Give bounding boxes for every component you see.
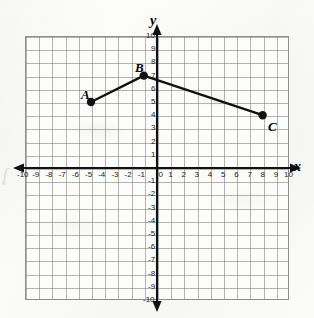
y-tick--10: -10 <box>143 296 155 304</box>
y-tick-8: 8 <box>151 58 155 66</box>
y-tick-9: 9 <box>151 45 155 53</box>
x-tick--10: -10 <box>17 171 29 179</box>
x-tick--3: -3 <box>111 171 118 179</box>
x-tick--4: -4 <box>98 171 105 179</box>
graph-vector-layer <box>7 18 307 318</box>
x-tick-2: 2 <box>181 171 185 179</box>
x-tick-8: 8 <box>261 171 265 179</box>
point-label-c: C <box>268 120 277 133</box>
x-tick-4: 4 <box>208 171 212 179</box>
x-tick-1: 1 <box>168 171 172 179</box>
coordinate-plane: A B C <box>25 36 289 300</box>
point-c-marker <box>258 111 266 119</box>
y-tick--5: -5 <box>148 230 155 238</box>
y-tick-3: 3 <box>151 124 155 132</box>
worksheet-page: ʆ A B <box>0 0 314 318</box>
y-tick-2: 2 <box>151 138 155 146</box>
origin-tick: 0 <box>159 171 163 179</box>
y-tick-6: 6 <box>151 85 155 93</box>
y-tick--9: -9 <box>148 283 155 291</box>
y-tick-10: 10 <box>146 32 155 40</box>
x-axis-label: x <box>294 160 301 174</box>
x-tick-3: 3 <box>195 171 199 179</box>
point-label-b: B <box>135 61 144 74</box>
point-label-a: A <box>81 88 90 101</box>
segment-abc <box>91 76 263 116</box>
y-tick-7: 7 <box>151 72 155 80</box>
x-tick--6: -6 <box>72 171 79 179</box>
data-polyline-group <box>87 71 267 119</box>
x-tick-5: 5 <box>221 171 225 179</box>
y-tick-4: 4 <box>151 111 155 119</box>
y-tick--1: -1 <box>148 177 155 185</box>
y-tick-1: 1 <box>151 151 155 159</box>
y-tick--7: -7 <box>148 256 155 264</box>
y-axis-label: y <box>150 14 156 28</box>
x-tick--1: -1 <box>138 171 145 179</box>
x-tick--2: -2 <box>125 171 132 179</box>
y-tick--8: -8 <box>148 270 155 278</box>
x-tick--7: -7 <box>59 171 66 179</box>
x-tick--9: -9 <box>32 171 39 179</box>
x-tick-10: 10 <box>284 171 293 179</box>
y-tick--6: -6 <box>148 243 155 251</box>
x-tick-6: 6 <box>234 171 238 179</box>
x-tick--8: -8 <box>45 171 52 179</box>
y-tick--3: -3 <box>148 204 155 212</box>
y-tick-5: 5 <box>151 98 155 106</box>
x-tick-9: 9 <box>274 171 278 179</box>
x-tick-7: 7 <box>247 171 251 179</box>
x-tick--5: -5 <box>85 171 92 179</box>
axes-group <box>13 24 301 312</box>
y-tick--2: -2 <box>148 190 155 198</box>
y-tick--4: -4 <box>148 217 155 225</box>
